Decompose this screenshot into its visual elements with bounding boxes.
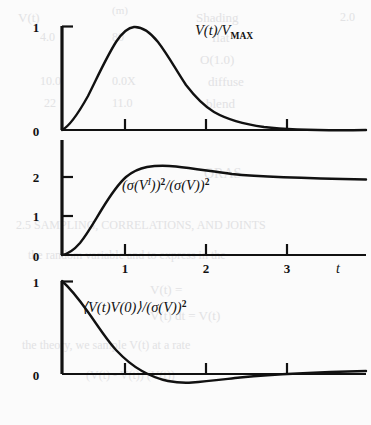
panel3-ylabel-1: 1 bbox=[33, 275, 40, 290]
panel2-ylabel-1: 1 bbox=[33, 209, 40, 224]
panel-autocorrelation: 1 0 ⟨V(t)V(0)⟩/(σ(V))2 bbox=[33, 275, 366, 383]
panel3-curve-label: ⟨V(t)V(0)⟩/(σ(V))2 bbox=[82, 299, 187, 316]
panel1-ylabel-0: 0 bbox=[33, 124, 40, 139]
panel2-curve-label: (σ(VI))2/(σ(V))2 bbox=[122, 177, 210, 194]
panel-variance-ratio: 2 1 0 1 2 3 t (σ(VI))2/(σ(V))2 bbox=[33, 140, 366, 276]
panel2-curve bbox=[62, 166, 366, 255]
panel3-ylabel-0: 0 bbox=[33, 368, 40, 383]
panel1-ylabel-1: 1 bbox=[33, 20, 40, 35]
figure-three-panel-velocity-statistics: 1 0 V(t)/VMAX 2 1 0 1 2 3 t (σ(VI))2/(σ(… bbox=[0, 0, 371, 425]
panel2-xlabel-2: 2 bbox=[203, 261, 210, 276]
panel2-xlabel-1: 1 bbox=[122, 261, 129, 276]
panel2-xlabel-3: 3 bbox=[284, 261, 291, 276]
figure-svg: 1 0 V(t)/VMAX 2 1 0 1 2 3 t (σ(VI))2/(σ(… bbox=[0, 0, 371, 425]
panel1-curve bbox=[62, 27, 366, 130]
panel2-ylabel-0: 0 bbox=[33, 249, 40, 264]
panel3-curve bbox=[62, 281, 366, 383]
panel-velocity: 1 0 V(t)/VMAX bbox=[33, 20, 366, 139]
panel2-x-axis-label: t bbox=[336, 261, 341, 276]
panel1-curve-label: V(t)/VMAX bbox=[195, 22, 253, 41]
panel2-ylabel-2: 2 bbox=[33, 170, 40, 185]
